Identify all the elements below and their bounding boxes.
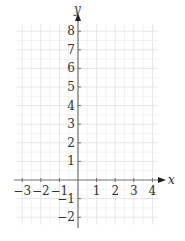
y-tick-label: 8 xyxy=(67,24,75,38)
y-tick-label: 3 xyxy=(67,117,75,131)
x-tick-label: 4 xyxy=(149,184,157,198)
x-tick-label: 1 xyxy=(93,184,101,198)
coordinate-plane: −3−2−11234−2−112345678 x y xyxy=(0,0,185,241)
y-tick-label: 7 xyxy=(67,43,75,57)
y-tick-label: 1 xyxy=(67,154,75,168)
y-axis-label: y xyxy=(73,2,81,16)
x-axis-arrow-icon xyxy=(158,177,166,183)
y-tick-label: 5 xyxy=(67,80,75,94)
y-tick-label: 4 xyxy=(67,99,75,113)
x-tick-label: 3 xyxy=(130,184,138,198)
y-tick-label: −2 xyxy=(57,210,75,224)
x-tick-label: −3 xyxy=(13,184,31,198)
x-tick-label: 2 xyxy=(111,184,119,198)
x-tick-label: −2 xyxy=(32,184,50,198)
y-tick-label: 2 xyxy=(67,136,75,150)
y-tick-label: −1 xyxy=(57,192,75,206)
x-axis-label: x xyxy=(168,173,175,187)
y-tick-label: 6 xyxy=(67,61,75,75)
